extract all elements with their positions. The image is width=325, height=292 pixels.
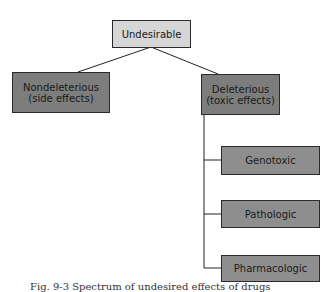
pathologic-node: Pathologic	[221, 200, 320, 228]
figure-caption: Fig. 9-3 Spectrum of undesired effects o…	[30, 281, 270, 292]
pharmacologic-node: Pharmacologic	[221, 255, 320, 282]
deleterious-label: Deleterious	[212, 84, 269, 95]
nondeleterious-sublabel: (side effects)	[28, 93, 93, 104]
nondeleterious-node: Nondeleterious (side effects)	[12, 72, 110, 113]
deleterious-sublabel: (toxic effects)	[206, 95, 275, 106]
genotoxic-node: Genotoxic	[221, 146, 320, 175]
pathologic-label: Pathologic	[245, 209, 297, 220]
pharmacologic-label: Pharmacologic	[234, 263, 307, 274]
genotoxic-label: Genotoxic	[245, 155, 295, 166]
deleterious-node: Deleterious (toxic effects)	[201, 74, 280, 115]
undesirable-label: Undesirable	[122, 29, 182, 40]
nondeleterious-label: Nondeleterious	[23, 82, 99, 93]
undesirable-node: Undesirable	[112, 20, 191, 48]
